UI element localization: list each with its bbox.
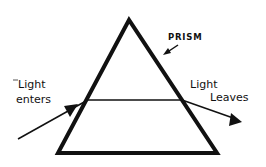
- light-enters-label-line2: enters: [16, 93, 51, 106]
- prism-diagram: PRISM Light enters Light Leaves: [0, 0, 266, 167]
- light-enters-label-line1: Light: [18, 78, 46, 91]
- light-leaves-label-line1: Light: [190, 78, 218, 91]
- prism-pointer-arrowhead-icon: [163, 48, 171, 55]
- light-leaves-label-line2: Leaves: [210, 91, 249, 104]
- outgoing-arrowhead-icon: [229, 113, 242, 126]
- prism-label: PRISM: [168, 32, 203, 42]
- incoming-arrowhead-icon: [64, 104, 78, 117]
